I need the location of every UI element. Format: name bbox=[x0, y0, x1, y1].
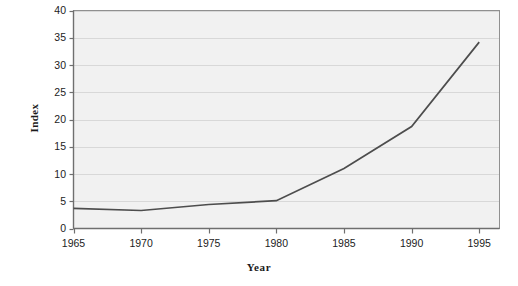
x-tick-label: 1995 bbox=[449, 238, 509, 249]
x-axis-tick-labels: 1965197019751980198519901995 bbox=[0, 0, 518, 286]
x-tick-label: 1975 bbox=[179, 238, 239, 249]
x-tick-label: 1970 bbox=[111, 238, 171, 249]
y-axis-title: Index bbox=[4, 88, 64, 148]
x-tick-label: 1980 bbox=[246, 238, 306, 249]
x-tick-label: 1985 bbox=[314, 238, 374, 249]
x-tick-label: 1990 bbox=[382, 238, 442, 249]
x-tick-label: 1965 bbox=[44, 238, 104, 249]
x-axis-title: Year bbox=[0, 261, 518, 273]
line-chart: 0510152025303540 19651970197519801985199… bbox=[0, 0, 518, 286]
